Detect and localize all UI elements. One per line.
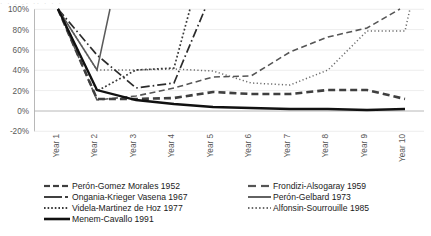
series-lines	[58, 9, 410, 110]
legend-item-ongania-krieger-vasena-1967[interactable]: Ongania-Krieger Vasena 1967	[44, 192, 188, 202]
series-line-ongania-krieger-vasena-1967	[58, 9, 205, 88]
xtick-label: Year 5	[206, 134, 215, 158]
legend-item-menem-cavallo-1991[interactable]: Menem-Cavallo 1991	[44, 214, 154, 224]
legend-item-peron-gomez-morales-1952[interactable]: Perón-Gomez Morales 1952	[44, 181, 180, 191]
xtick-label: Year 7	[283, 134, 292, 158]
xtick-label: Year 8	[321, 134, 330, 158]
ytick-label: 60%	[13, 46, 29, 55]
legend-label: Perón-Gelbard 1973	[273, 192, 351, 202]
legend: Perón-Gomez Morales 1952 Ongania-Krieger…	[44, 181, 369, 224]
ytick-label: 20%	[13, 87, 29, 96]
line-chart: 100% 80% 60% 40% 20% 0% -20% Year 1 Year…	[0, 0, 431, 236]
xtick-label: Year 3	[129, 134, 138, 158]
xtick-label: Year 2	[90, 134, 99, 158]
legend-label: Videla-Martinez de Hoz 1977	[72, 203, 183, 213]
xtick-label: Year 9	[360, 134, 369, 158]
legend-label: Menem-Cavallo 1991	[72, 214, 154, 224]
ytick-label: 80%	[13, 26, 29, 35]
series-line-frondizi-alsogaray-1959	[58, 9, 400, 100]
legend-label: Ongania-Krieger Vasena 1967	[72, 192, 188, 202]
legend-label: Alfonsin-Sourrouille 1985	[273, 203, 369, 213]
xtick-label: Year 1	[52, 134, 61, 158]
series-line-peron-gomez-morales-1952	[58, 9, 405, 99]
legend-item-peron-gelbard-1973[interactable]: Perón-Gelbard 1973	[248, 192, 351, 202]
legend-item-alfonsin-sourrouille-1985[interactable]: Alfonsin-Sourrouille 1985	[248, 203, 369, 213]
x-axis-tick-labels: Year 1 Year 2 Year 3 Year 4 Year 5 Year …	[52, 134, 407, 162]
legend-label: Frondizi-Alsogaray 1959	[273, 181, 366, 191]
legend-item-frondizi-alsogaray-1959[interactable]: Frondizi-Alsogaray 1959	[248, 181, 366, 191]
legend-label: Perón-Gomez Morales 1952	[72, 181, 180, 191]
ytick-label: 100%	[8, 5, 29, 14]
series-line-menem-cavallo-1991	[58, 9, 405, 110]
ytick-label: -20%	[10, 127, 29, 136]
legend-item-videla-martinez-de-hoz-1977[interactable]: Videla-Martinez de Hoz 1977	[44, 203, 183, 213]
y-gridlines	[34, 9, 424, 111]
xtick-label: Year 4	[167, 134, 176, 158]
series-line-alfonsin-sourrouille-1985	[58, 9, 410, 85]
xtick-label: Year 6	[244, 134, 253, 158]
ytick-label: 0%	[17, 107, 29, 116]
y-axis-tick-labels: 100% 80% 60% 40% 20% 0% -20%	[8, 5, 29, 136]
ytick-label: 40%	[13, 66, 29, 75]
xtick-label: Year 10	[398, 134, 407, 162]
